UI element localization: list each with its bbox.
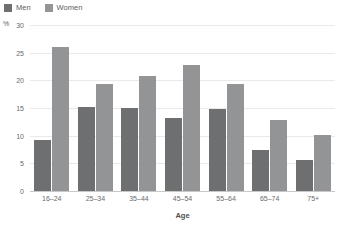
bar-group [161,25,205,191]
bar-men[interactable] [252,150,269,192]
bar-men[interactable] [209,109,226,191]
y-axis-tick-label: 30 [16,22,24,29]
x-axis-tick-label: 16–24 [30,194,74,203]
x-axis-tick-label: 45–54 [161,194,205,203]
gridline [30,191,335,192]
bar-men[interactable] [165,118,182,191]
bar-women[interactable] [139,76,156,191]
bar-men[interactable] [121,108,138,191]
x-axis-tick-labels: 16–2425–3435–4445–5455–6465–7475+ [30,194,335,203]
x-axis-tick-label: 75+ [291,194,335,203]
bar-women[interactable] [183,65,200,191]
y-axis-tick-label: 0 [20,188,24,195]
bar-series-container [30,25,335,191]
bar-chart: Men Women % 302520151050 16–2425–3435–44… [0,0,339,232]
legend-swatch-men [4,4,12,12]
x-axis-title: Age [30,211,335,220]
bar-women[interactable] [96,84,113,191]
bar-group [117,25,161,191]
bar-women[interactable] [270,120,287,191]
x-axis-tick-label: 55–64 [204,194,248,203]
x-axis-tick-label: 25–34 [74,194,118,203]
chart-legend: Men Women [4,2,82,14]
legend-label-men: Men [16,4,31,12]
bar-group [291,25,335,191]
bar-men[interactable] [78,107,95,191]
bar-women[interactable] [227,84,244,191]
bar-men[interactable] [296,160,313,191]
legend-item-men: Men [4,4,31,12]
y-axis-tick-label: 10 [16,132,24,139]
legend-item-women: Women [45,4,83,12]
bar-men[interactable] [34,140,51,191]
y-axis-tick-label: 25 [16,49,24,56]
bar-women[interactable] [314,135,331,191]
y-axis-tick-labels: 302520151050 [0,25,27,191]
plot-area [30,25,335,191]
x-axis-tick-label: 35–44 [117,194,161,203]
y-axis-tick-label: 5 [20,160,24,167]
bar-group [74,25,118,191]
bar-group [204,25,248,191]
y-axis-tick-label: 20 [16,77,24,84]
legend-swatch-women [45,4,53,12]
y-axis-tick-label: 15 [16,105,24,112]
bar-women[interactable] [52,47,69,191]
x-axis-tick-label: 65–74 [248,194,292,203]
bar-group [248,25,292,191]
legend-label-women: Women [57,4,83,12]
bar-group [30,25,74,191]
